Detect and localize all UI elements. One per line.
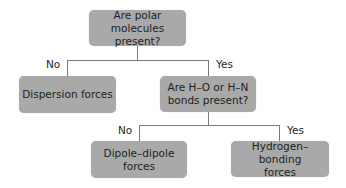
connector-q1-yes-drop — [208, 60, 209, 76]
decision-node-h-bonds: Are H–O or H–N bonds present? — [160, 76, 256, 112]
result-node-dipole-dipole-forces: Dipole–dipole forces — [91, 141, 187, 178]
edge-label-q1-no: No — [46, 58, 60, 70]
result-node-dispersion-forces: Dispersion forces — [19, 76, 116, 113]
edge-label-q1-yes: Yes — [216, 58, 233, 70]
edge-label-q2-yes: Yes — [287, 124, 304, 136]
connector-q2-no-drop — [139, 125, 140, 141]
connector-q1-no-drop — [67, 60, 68, 76]
result-node-hydrogen-bonding-forces: Hydrogen–bonding forces — [231, 141, 329, 177]
connector-q2-horizontal — [139, 125, 280, 126]
edge-label-q2-no: No — [118, 124, 132, 136]
connector-q2-stem — [208, 112, 209, 125]
connector-q1-stem — [137, 46, 138, 60]
connector-q1-horizontal — [67, 60, 209, 61]
decision-node-polar-molecules: Are polar molecules present? — [89, 10, 186, 46]
